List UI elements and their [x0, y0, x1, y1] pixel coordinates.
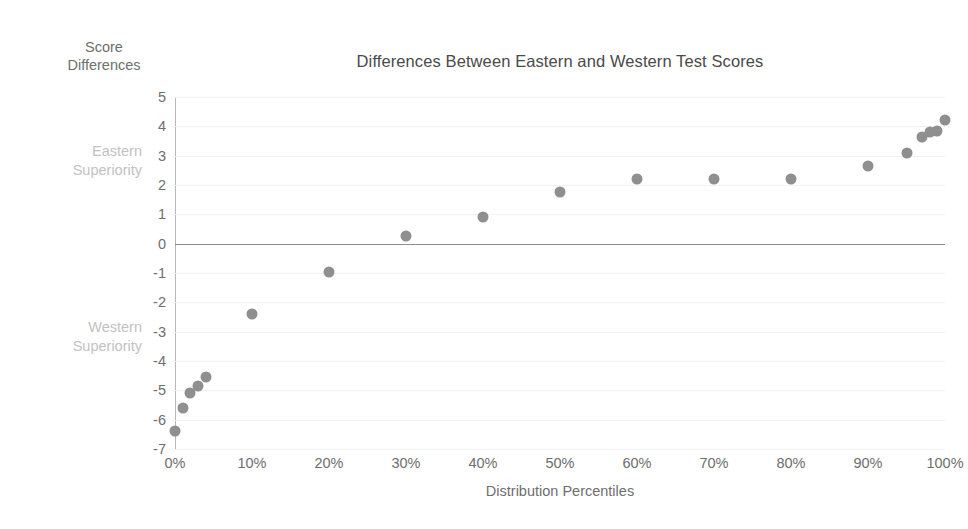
x-axis-title: Distribution Percentiles	[175, 483, 945, 499]
y-axis-tick-label: 1	[130, 206, 166, 222]
y-axis-tick-label: 3	[130, 148, 166, 164]
gridline	[175, 97, 945, 98]
x-axis-tick-label: 90%	[838, 455, 898, 471]
y-axis-tick-label: 4	[130, 118, 166, 134]
data-point	[193, 380, 204, 391]
gridline	[175, 302, 945, 303]
y-axis-tick-label: -3	[130, 324, 166, 340]
x-axis-tick-label: 10%	[222, 455, 282, 471]
x-axis-tick-label: 30%	[376, 455, 436, 471]
x-axis-tick-label: 40%	[453, 455, 513, 471]
data-point	[170, 426, 181, 437]
x-axis-tick-label: 70%	[684, 455, 744, 471]
zero-line	[175, 244, 945, 245]
gridline	[175, 449, 945, 450]
annotation-western-line1: Western	[30, 318, 142, 337]
y-axis-title-line1: Score	[48, 38, 160, 56]
annotation-eastern-line2: Superiority	[30, 161, 142, 180]
gridline	[175, 420, 945, 421]
annotation-western-line2: Superiority	[30, 337, 142, 356]
data-point	[324, 266, 335, 277]
gridline	[175, 390, 945, 391]
x-axis-tick-label: 80%	[761, 455, 821, 471]
data-point	[247, 309, 258, 320]
x-axis-tick-label: 60%	[607, 455, 667, 471]
annotation-western-superiority: Western Superiority	[30, 318, 142, 356]
gridline	[175, 332, 945, 333]
x-axis-tick-label: 20%	[299, 455, 359, 471]
data-point	[200, 372, 211, 383]
y-axis-tick-label: -6	[130, 412, 166, 428]
x-axis-tick-label: 100%	[915, 455, 968, 471]
gridline	[175, 156, 945, 157]
data-point	[901, 147, 912, 158]
data-point	[786, 174, 797, 185]
data-point	[401, 231, 412, 242]
y-axis-tick-label: -4	[130, 353, 166, 369]
data-point	[177, 402, 188, 413]
data-point	[555, 187, 566, 198]
y-axis-tick-label: -5	[130, 382, 166, 398]
plot-area	[175, 97, 945, 449]
data-point	[863, 160, 874, 171]
data-point	[932, 125, 943, 136]
annotation-eastern-line1: Eastern	[30, 142, 142, 161]
gridline	[175, 126, 945, 127]
y-axis-tick-label: 5	[130, 89, 166, 105]
y-axis-title-line2: Differences	[48, 56, 160, 74]
data-point	[940, 115, 951, 126]
gridline	[175, 273, 945, 274]
y-axis-tick-label: 2	[130, 177, 166, 193]
data-point	[478, 212, 489, 223]
data-point	[632, 174, 643, 185]
x-axis-tick-label: 50%	[530, 455, 590, 471]
chart-title: Differences Between Eastern and Western …	[175, 52, 945, 71]
data-point	[709, 174, 720, 185]
y-axis-tick-label: -1	[130, 265, 166, 281]
y-axis-tick-label: 0	[130, 236, 166, 252]
y-axis-title: Score Differences	[48, 38, 160, 74]
y-axis-tick-label: -2	[130, 294, 166, 310]
x-axis-tick-label: 0%	[145, 455, 205, 471]
annotation-eastern-superiority: Eastern Superiority	[30, 142, 142, 180]
gridline	[175, 214, 945, 215]
gridline	[175, 361, 945, 362]
